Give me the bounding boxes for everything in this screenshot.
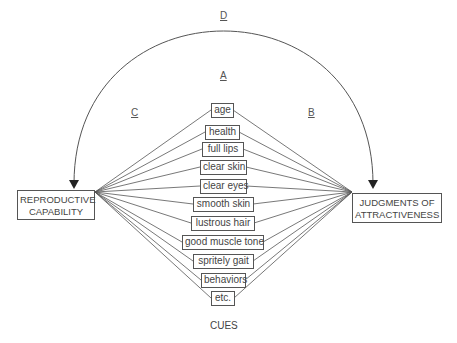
path-label-b: B [308, 107, 315, 118]
cue-box: full lips [202, 142, 244, 157]
cue-box: clear skin [200, 160, 247, 175]
cue-box: health [205, 125, 240, 140]
cue-box: clear eyes [200, 179, 247, 194]
cue-box: smooth skin [193, 197, 254, 212]
cue-box: behaviors [201, 273, 246, 288]
cue-box: spritely gait [193, 254, 254, 269]
path-label-d: D [220, 10, 227, 21]
cue-box: lustrous hair [191, 216, 255, 231]
path-label-c: C [131, 107, 138, 118]
cue-box: age [211, 103, 234, 118]
node-line: REPRODUCTIVE [20, 194, 92, 206]
path-label-a: A [220, 70, 227, 81]
reproductive-capability-node: REPRODUCTIVE CAPABILITY [17, 190, 95, 220]
node-line: JUDGMENTS OF [355, 197, 439, 209]
node-line: ATTRACTIVENESS [355, 209, 439, 221]
judgments-of-attractiveness-node: JUDGMENTS OF ATTRACTIVENESS [352, 193, 442, 223]
cue-box: etc. [211, 291, 235, 306]
cue-box: good muscle tone [182, 235, 264, 250]
node-line: CAPABILITY [20, 206, 92, 218]
cues-title: CUES [210, 320, 238, 331]
